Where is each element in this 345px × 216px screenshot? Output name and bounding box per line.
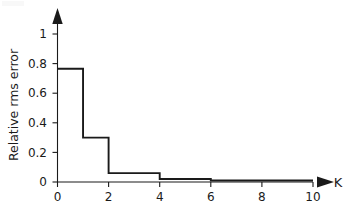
x-tick-label-6: 6 [207,190,215,204]
y-axis-arrow-icon [52,8,62,24]
x-axis-label: K [334,175,343,190]
y-axis-label: Relative rms error [6,48,21,161]
x-axis-arrow-icon [317,177,334,188]
y-tick-label-0.4: 0.4 [28,116,47,130]
y-tick-label-0.6: 0.6 [28,86,47,100]
y-tick-label-0.2: 0.2 [28,146,47,160]
y-tick-label-0.8: 0.8 [28,57,47,71]
step-chart: 0 0.2 0.4 0.6 0.8 1 0 2 4 6 8 10 K Relat… [0,0,345,216]
x-tick-label-4: 4 [156,190,164,204]
data-series-step [58,69,314,181]
figure-container: 0 0.2 0.4 0.6 0.8 1 0 2 4 6 8 10 K Relat… [0,0,345,216]
x-tick-label-10: 10 [305,190,320,204]
x-tick-label-8: 8 [258,190,266,204]
y-tick-label-0: 0 [39,175,47,189]
x-tick-label-2: 2 [105,190,113,204]
x-tick-label-0: 0 [54,190,62,204]
y-tick-label-1: 1 [39,27,47,41]
